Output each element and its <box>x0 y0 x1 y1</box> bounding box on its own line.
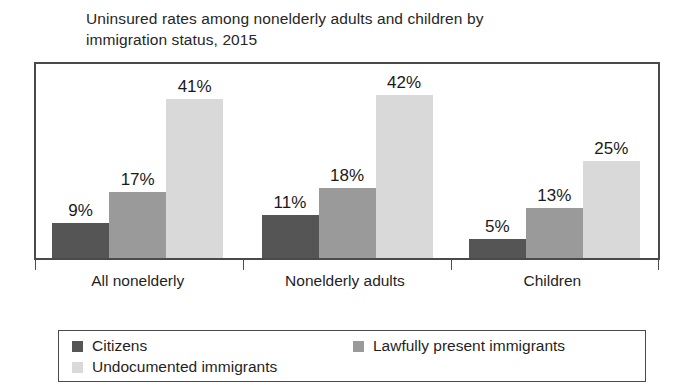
bar[interactable] <box>166 99 223 258</box>
bar[interactable] <box>52 223 109 258</box>
bar[interactable] <box>109 192 166 258</box>
bar-column: 11% <box>262 64 319 258</box>
bar-group: 5%13%25% <box>469 64 640 258</box>
axis-tick <box>243 260 244 270</box>
category-label-children: Children <box>449 272 656 290</box>
bar-column: 9% <box>52 64 109 258</box>
legend-item[interactable]: Citizens <box>72 337 147 355</box>
bar-group: 11%18%42% <box>262 64 433 258</box>
bar-column: 13% <box>526 64 583 258</box>
axis-tick <box>658 260 659 270</box>
legend-swatch-icon <box>72 341 83 352</box>
legend-label: Citizens <box>92 337 147 355</box>
bar-value-label: 25% <box>571 139 651 159</box>
bar[interactable] <box>262 215 319 258</box>
axis-tick <box>451 260 452 270</box>
bar[interactable] <box>469 239 526 258</box>
bar[interactable] <box>319 188 376 258</box>
legend-item[interactable]: Undocumented immigrants <box>72 358 277 376</box>
legend-swatch-icon <box>72 362 83 373</box>
bar-column: 5% <box>469 64 526 258</box>
category-label-all-nonelderly: All nonelderly <box>34 272 241 290</box>
bar-value-label: 42% <box>364 73 444 93</box>
x-axis-ticks <box>34 260 660 270</box>
bar-group: 9%17%41% <box>52 64 223 258</box>
bar-column: 25% <box>583 64 640 258</box>
bar[interactable] <box>583 161 640 258</box>
legend-label: Lawfully present immigrants <box>373 337 565 355</box>
axis-tick <box>35 260 36 270</box>
category-label-nonelderly-adults: Nonelderly adults <box>241 272 448 290</box>
bar[interactable] <box>376 95 433 258</box>
bar-column: 18% <box>319 64 376 258</box>
plot-frame: 9%17%41%11%18%42%5%13%25% <box>34 62 660 260</box>
legend-item[interactable]: Lawfully present immigrants <box>353 337 565 355</box>
bar-column: 42% <box>376 64 433 258</box>
legend-label: Undocumented immigrants <box>92 358 277 376</box>
chart-legend: CitizensLawfully present immigrantsUndoc… <box>58 330 646 382</box>
legend-swatch-icon <box>353 341 364 352</box>
x-axis-category-labels: All nonelderlyNonelderly adultsChildren <box>34 272 660 298</box>
bar-column: 41% <box>166 64 223 258</box>
plot-area: 9%17%41%11%18%42%5%13%25% <box>36 64 658 258</box>
chart-title: Uninsured rates among nonelderly adults … <box>86 8 586 50</box>
bar[interactable] <box>526 208 583 258</box>
bar-value-label: 41% <box>155 77 235 97</box>
